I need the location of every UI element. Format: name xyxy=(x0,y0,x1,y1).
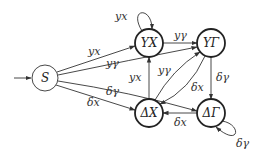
edge-label-yg-dg: δγ xyxy=(216,71,230,84)
automaton-diagram: yx yγ δγ δx yx yγ yx yγ δx δγ δx δγ S YX… xyxy=(0,0,259,156)
edge-label-s-yx: yx xyxy=(87,45,101,58)
edge-label-s-dx: δx xyxy=(87,96,101,109)
edge-label-dx-yx: yx xyxy=(128,71,142,84)
edge-label-yx-loop: yx xyxy=(114,10,128,23)
node-label-dx: ΔX xyxy=(139,106,158,120)
node-label-yx: YX xyxy=(141,36,158,50)
edge-s-dg xyxy=(58,81,197,111)
edge-label-dg-dx: δx xyxy=(174,116,188,129)
edge-label-s-yg: yγ xyxy=(105,57,119,70)
node-s: S xyxy=(32,65,58,91)
edge-label-s-dg: δγ xyxy=(106,85,120,98)
edge-label-dg-loop: δγ xyxy=(236,137,250,150)
node-yg: YΓ xyxy=(197,29,225,57)
node-label-yg: YΓ xyxy=(203,36,220,50)
edge-label-dx-yg: yγ xyxy=(157,64,171,77)
node-dx: ΔX xyxy=(135,99,163,127)
node-label-s: S xyxy=(41,71,49,85)
edge-label-yg-dx: δx xyxy=(191,81,205,94)
edge-label-yx-yg: yγ xyxy=(173,29,187,42)
node-yx: YX xyxy=(135,29,163,57)
node-label-dg: ΔΓ xyxy=(202,106,221,120)
node-dg: ΔΓ xyxy=(197,99,225,127)
edge-s-yg xyxy=(58,47,197,75)
